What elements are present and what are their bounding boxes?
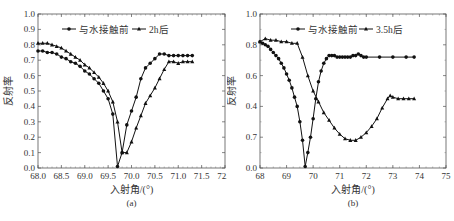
circle-marker xyxy=(404,55,408,59)
circle-marker xyxy=(266,45,270,49)
x-tick-label: 71.0 xyxy=(170,171,186,181)
circle-marker xyxy=(116,165,120,169)
panel-label: (b) xyxy=(348,198,359,208)
triangle-marker xyxy=(87,66,91,70)
plot-frame xyxy=(260,14,446,168)
circle-marker xyxy=(412,55,416,59)
x-tick-label: 73 xyxy=(388,171,398,181)
circle-marker xyxy=(162,52,166,56)
circle-marker xyxy=(325,57,329,61)
circle-marker xyxy=(303,165,307,169)
circle-marker xyxy=(92,77,96,81)
plot-frame xyxy=(38,14,225,168)
y-tick-label: 0.4 xyxy=(246,101,258,111)
triangle-marker xyxy=(388,93,392,97)
circle-marker xyxy=(111,112,115,116)
series-line xyxy=(38,51,192,167)
triangle-marker xyxy=(69,52,73,56)
x-tick-label: 71 xyxy=(335,171,344,181)
circle-marker xyxy=(46,51,50,55)
circle-marker xyxy=(319,69,323,73)
circle-marker xyxy=(277,57,281,61)
x-tick-label: 69.0 xyxy=(77,171,93,181)
triangle-marker xyxy=(115,120,119,124)
circle-marker xyxy=(176,54,180,58)
circle-marker xyxy=(167,54,171,58)
triangle-marker xyxy=(78,58,82,62)
triangle-marker xyxy=(130,140,134,144)
circle-marker xyxy=(298,120,302,124)
circle-marker xyxy=(186,54,190,58)
circle-marker xyxy=(172,54,176,58)
triangle-marker xyxy=(158,76,162,80)
circle-marker xyxy=(290,86,294,90)
x-tick-label: 69.5 xyxy=(100,171,116,181)
triangle-marker xyxy=(316,100,320,104)
y-tick-label: 0.8 xyxy=(246,40,258,50)
x-tick-label: 72.0 xyxy=(217,171,227,181)
circle-marker xyxy=(295,105,299,109)
y-tick-label: 0.7 xyxy=(246,132,258,142)
y-tick-label: 1.0 xyxy=(246,9,258,19)
circle-marker xyxy=(322,61,326,65)
circle-marker xyxy=(190,54,194,58)
circle-marker xyxy=(60,55,64,59)
circle-marker xyxy=(181,54,185,58)
circle-marker xyxy=(378,55,382,59)
y-tick-label: 0.0 xyxy=(24,163,36,173)
triangle-marker xyxy=(375,117,379,121)
triangle-marker xyxy=(311,89,315,93)
circle-marker xyxy=(293,95,297,99)
circle-marker xyxy=(317,80,321,84)
legend-label: 3.5h后 xyxy=(376,25,403,35)
circle-marker xyxy=(78,65,82,69)
circle-marker xyxy=(69,60,73,64)
circle-marker xyxy=(55,52,59,56)
legend-label: 2h后 xyxy=(149,25,169,35)
series-line xyxy=(260,42,414,167)
circle-marker xyxy=(391,55,395,59)
triangle-marker xyxy=(134,126,138,130)
legend-label: 与水接触前 xyxy=(79,24,129,35)
x-tick-label: 69 xyxy=(282,171,292,181)
y-axis-label: 反射率 xyxy=(227,76,237,106)
x-tick-label: 68.5 xyxy=(54,171,70,181)
circle-marker xyxy=(125,123,129,127)
circle-marker xyxy=(301,138,305,142)
circle-marker xyxy=(41,49,45,53)
y-tick-label: 1.0 xyxy=(24,9,36,19)
triangle-marker xyxy=(322,110,326,114)
circle-marker xyxy=(309,135,313,139)
x-tick-label: 72 xyxy=(362,171,371,181)
circle-marker xyxy=(144,66,148,70)
circle-marker xyxy=(282,66,286,70)
circle-marker xyxy=(364,55,368,59)
circle-marker xyxy=(139,77,143,81)
triangle-marker xyxy=(73,55,77,59)
x-tick-label: 70.5 xyxy=(147,171,163,181)
y-tick-label: 0.4 xyxy=(24,101,36,111)
circle-marker xyxy=(271,51,275,55)
x-axis-label: 入射角/(°) xyxy=(110,184,153,196)
chart-b: 68697071727374750.00.70.40.60.81.0入射角/(°… xyxy=(227,0,454,221)
circle-marker xyxy=(311,117,315,121)
chart-panel-b: 68697071727374750.00.70.40.60.81.0入射角/(°… xyxy=(227,0,454,221)
chart-a: 68.068.569.069.570.070.571.071.572.00.00… xyxy=(0,0,227,221)
x-tick-label: 70 xyxy=(309,171,319,181)
circle-marker xyxy=(285,72,289,76)
triangle-marker xyxy=(153,86,157,90)
circle-marker xyxy=(134,95,138,99)
circle-marker xyxy=(64,57,68,61)
circle-marker xyxy=(274,54,278,58)
x-tick-label: 70.0 xyxy=(124,171,140,181)
chart-panel-a: 68.068.569.069.570.070.571.071.572.00.00… xyxy=(0,0,227,221)
circle-marker xyxy=(287,78,291,82)
circle-marker xyxy=(102,89,106,93)
legend-circle-marker xyxy=(67,27,71,31)
circle-marker xyxy=(148,61,152,65)
triangle-marker xyxy=(306,73,310,77)
circle-marker xyxy=(74,61,78,65)
y-tick-label: 0.6 xyxy=(246,71,258,81)
circle-marker xyxy=(306,151,310,155)
circle-marker xyxy=(130,109,134,113)
